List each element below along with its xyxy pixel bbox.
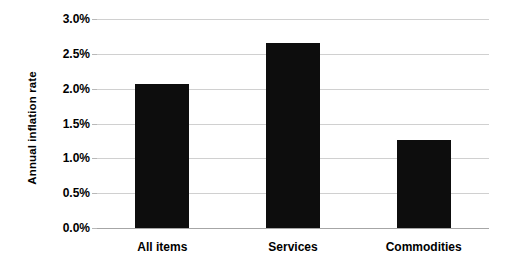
y-axis-tick-label: 0.0% <box>44 222 90 234</box>
y-axis-tick-label: 0.5% <box>44 187 90 199</box>
y-axis-tick-mark <box>92 89 97 90</box>
x-axis-category-label: All items <box>92 240 232 254</box>
y-axis-tick-label: 2.0% <box>44 83 90 95</box>
y-axis-tick-mark <box>92 193 97 194</box>
y-axis-tick-mark <box>92 158 97 159</box>
bar[interactable] <box>266 43 320 228</box>
x-axis-line <box>97 228 489 229</box>
x-axis-category-label: Services <box>223 240 363 254</box>
y-axis-tick-labels: 3.0%2.5%2.0%1.5%1.0%0.5%0.0% <box>44 0 90 274</box>
y-axis-tick-mark <box>92 54 97 55</box>
bar-chart: Annual inflation rate 3.0%2.5%2.0%1.5%1.… <box>0 0 512 274</box>
y-axis-tick-label: 1.0% <box>44 152 90 164</box>
x-axis-category-label: Commodities <box>354 240 494 254</box>
y-axis-tick-mark <box>92 124 97 125</box>
bar[interactable] <box>397 140 451 228</box>
plot-area <box>97 19 489 228</box>
y-axis-title: Annual inflation rate <box>22 13 42 243</box>
y-axis-tick-label: 1.5% <box>44 118 90 130</box>
y-axis-tick-mark <box>92 19 97 20</box>
y-axis-tick-label: 3.0% <box>44 13 90 25</box>
bar[interactable] <box>135 84 189 228</box>
y-axis-tick-label: 2.5% <box>44 48 90 60</box>
gridline <box>97 19 489 20</box>
